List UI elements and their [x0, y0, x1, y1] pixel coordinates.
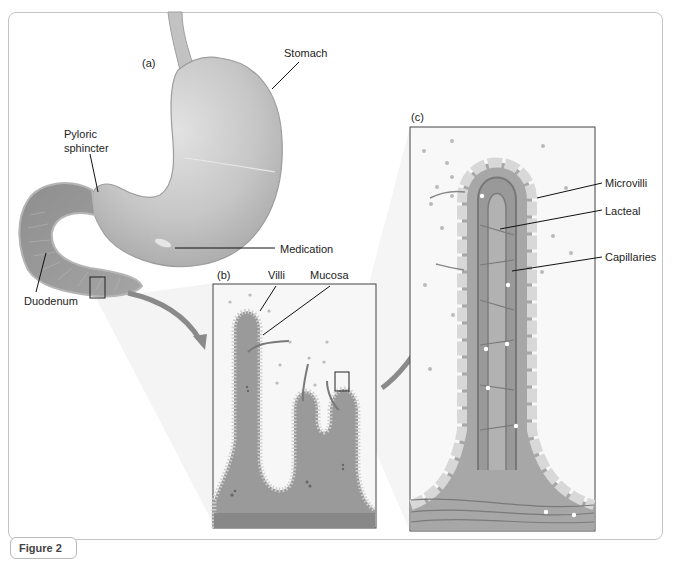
label-duodenum: Duodenum — [24, 295, 78, 307]
label-lacteal: Lacteal — [605, 205, 640, 217]
label-capillaries: Capillaries — [605, 251, 656, 263]
zoom-beam-a-b — [96, 283, 215, 527]
stomach — [92, 57, 283, 266]
label-microvilli: Microvilli — [605, 177, 647, 189]
label-pyloric-line2: sphincter — [64, 142, 109, 154]
label-mucosa: Mucosa — [310, 269, 349, 281]
label-villi: Villi — [268, 269, 285, 281]
figure-caption-tab: Figure 2 — [10, 537, 77, 559]
label-medication: Medication — [280, 243, 333, 255]
panel-a-letter: (a) — [142, 57, 155, 69]
panel-b-letter: (b) — [217, 269, 230, 281]
label-stomach: Stomach — [284, 47, 327, 59]
panel-c-letter: (c) — [411, 111, 424, 123]
label-pyloric-line1: Pyloric — [64, 128, 97, 140]
figure-artwork — [0, 0, 673, 565]
